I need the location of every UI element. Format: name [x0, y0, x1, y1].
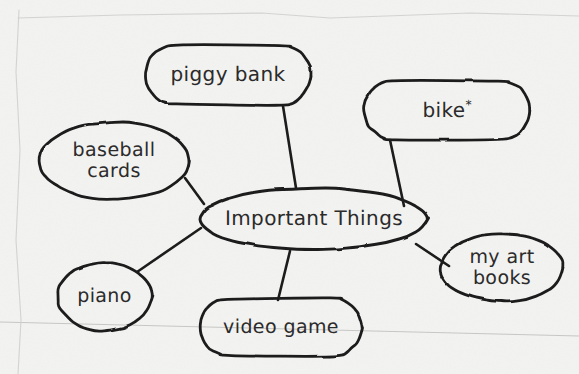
node-video-game[interactable]	[200, 298, 362, 356]
mind-map-canvas: Important Thingspiggy bankbike*baseballc…	[0, 0, 579, 374]
node-piano[interactable]	[57, 262, 152, 331]
node-baseball-cards[interactable]	[38, 122, 190, 200]
node-bike[interactable]	[364, 80, 530, 140]
node-piggy-bank[interactable]	[145, 45, 311, 105]
node-my-art-books[interactable]	[440, 234, 564, 302]
node-important-things[interactable]	[200, 188, 428, 250]
